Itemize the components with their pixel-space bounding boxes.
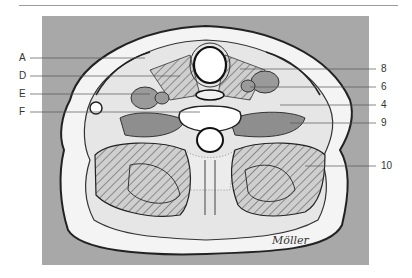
label-9: 9 — [381, 118, 387, 128]
label-f: F — [19, 107, 25, 117]
label-6: 6 — [381, 82, 387, 92]
label-4: 4 — [381, 100, 387, 110]
label-8: 8 — [381, 64, 387, 74]
trachea — [194, 47, 226, 83]
label-a: A — [19, 53, 26, 63]
label-10: 10 — [381, 161, 392, 171]
label-d: D — [19, 71, 26, 81]
label-e: E — [19, 89, 26, 99]
spinal-cord — [197, 128, 223, 152]
signature: Möller — [271, 234, 309, 247]
neck-cross-section-illustration: Möller — [0, 0, 412, 278]
esophagus — [196, 90, 224, 100]
